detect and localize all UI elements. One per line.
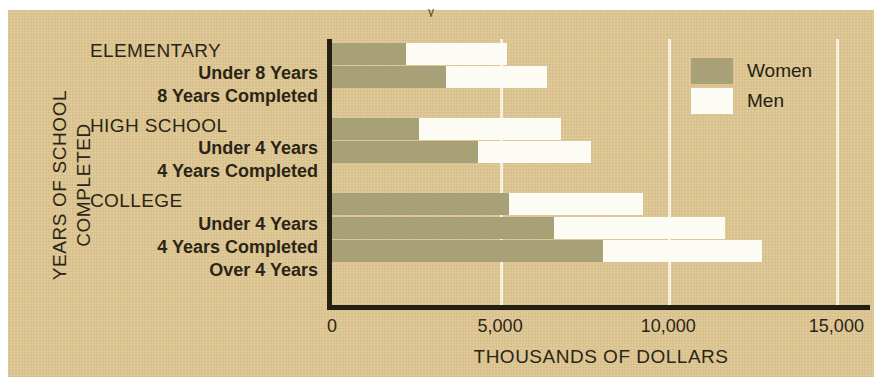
bar-women-0 <box>332 43 406 65</box>
bar-men-1 <box>446 66 547 88</box>
bar-men-6 <box>603 240 763 262</box>
legend-label-women: Women <box>747 60 812 82</box>
bar-women-6 <box>332 240 603 262</box>
bar-men-0 <box>406 43 507 65</box>
legend-label-men: Men <box>747 90 784 112</box>
x-tick-label-2: 10,000 <box>641 316 696 337</box>
row-label-college-under4: Under 4 Years <box>198 214 318 235</box>
group-heading-elementary: ELEMENTARY <box>90 40 221 62</box>
women-swatch-icon <box>691 58 733 84</box>
chart-page: y YEARS OF SCHOOL COMPLETED ELEMENTARY U… <box>0 0 882 387</box>
bar-women-1 <box>332 66 446 88</box>
row-label-hs-4completed: 4 Years Completed <box>157 161 318 182</box>
chart-card: y YEARS OF SCHOOL COMPLETED ELEMENTARY U… <box>8 10 874 377</box>
row-label-elementary-8completed: 8 Years Completed <box>157 86 318 107</box>
bar-women-3 <box>332 141 478 163</box>
group-heading-high-school: HIGH SCHOOL <box>90 115 227 137</box>
category-label-column: ELEMENTARY Under 8 Years 8 Years Complet… <box>68 40 318 305</box>
group-heading-college: COLLEGE <box>90 190 183 212</box>
gridline-10000 <box>668 39 671 305</box>
row-label-hs-under4: Under 4 Years <box>198 138 318 159</box>
bar-men-4 <box>509 193 644 215</box>
x-axis-title: THOUSANDS OF DOLLARS <box>332 346 870 368</box>
clipped-top-caption: y <box>428 5 868 17</box>
chart-legend: Women Men <box>691 56 841 116</box>
men-swatch-icon <box>691 88 733 114</box>
bar-women-2 <box>332 118 419 140</box>
x-tick-label-3: 15,000 <box>809 316 864 337</box>
bar-men-2 <box>419 118 560 140</box>
legend-item-women: Women <box>691 56 841 86</box>
bar-women-5 <box>332 217 554 239</box>
x-tick-label-0: 0 <box>327 316 337 337</box>
bar-men-5 <box>554 217 725 239</box>
row-label-elementary-under8: Under 8 Years <box>198 63 318 84</box>
x-tick-label-1: 5,000 <box>478 316 523 337</box>
row-label-college-over4: Over 4 Years <box>209 260 318 281</box>
legend-item-men: Men <box>691 86 841 116</box>
bar-women-4 <box>332 193 509 215</box>
x-axis-line <box>327 305 870 310</box>
bar-men-3 <box>478 141 591 163</box>
row-label-college-4completed: 4 Years Completed <box>157 237 318 258</box>
